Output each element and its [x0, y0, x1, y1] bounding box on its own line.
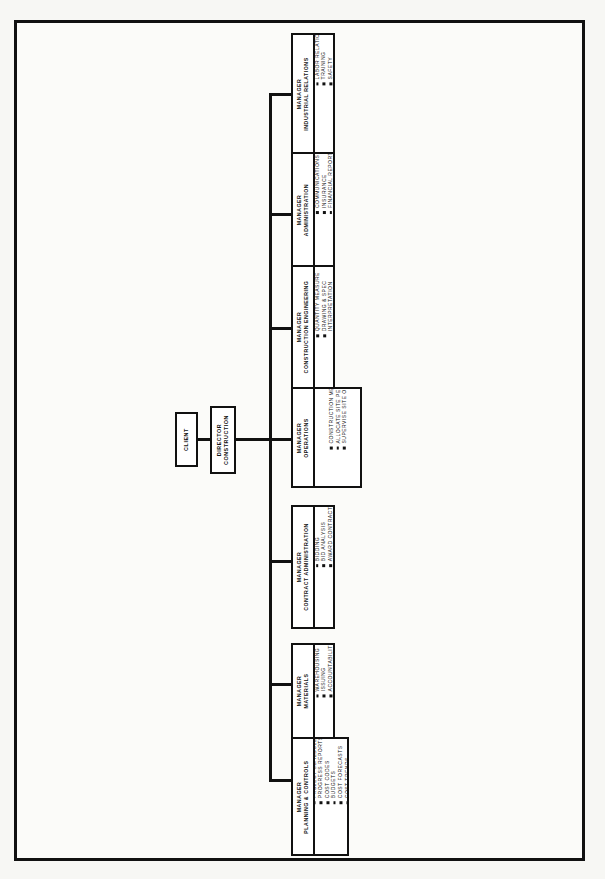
node-construction-engineering-list: SURVEY CONTROLDRAWING & SPEC CONTROLQUAN…	[313, 267, 333, 337]
node-list-item: PACKAGE PREPARATION	[313, 507, 314, 567]
branch-stub-materials	[269, 683, 291, 686]
branch-stub-operations	[269, 438, 291, 441]
node-administration-title-line2: ADMINISTRATION	[303, 183, 310, 235]
node-materials-title: MANAGER MATERIALS	[296, 674, 310, 709]
node-materials-list: RECEIVINGWAREHOUSINGISSUINGACCOUNTABILIT…	[313, 645, 333, 697]
node-operations-body: CONSTRUCTION METHODSALLOCATE SITE PERSON…	[313, 389, 360, 486]
connector-client-director	[198, 438, 210, 441]
node-materials[interactable]: MANAGER MATERIALS RECEIVINGWAREHOUSINGIS…	[291, 643, 335, 739]
node-contract-administration-title-line2: CONTRACT ADMINISTRATION	[303, 523, 310, 611]
node-operations[interactable]: MANAGER OPERATIONS CONSTRUCTION METHODSA…	[291, 387, 362, 488]
node-list-item: QUANTITY MEASURE	[314, 267, 321, 337]
node-operations-title-cell: MANAGER OPERATIONS	[293, 389, 313, 486]
node-construction-engineering[interactable]: MANAGER CONSTRUCTION ENGINEERING SURVEY …	[291, 265, 335, 389]
node-materials-title-cell: MANAGER MATERIALS	[293, 645, 313, 737]
node-contract-administration-body: PACKAGE PREPARATIONBIDDINGBID ANALYSISAW…	[313, 507, 333, 627]
node-list-item: DRAWING & SPEC	[321, 267, 328, 337]
connector-director-trunk	[236, 438, 271, 441]
branch-stub-planning-controls	[269, 779, 291, 782]
node-construction-engineering-title-cell: MANAGER CONSTRUCTION ENGINEERING	[293, 267, 313, 387]
node-industrial-relations-title: MANAGER INDUSTRIAL RELATIONS	[296, 57, 310, 130]
node-planning-controls-title: MANAGER PLANNING & CONTROLS	[296, 760, 310, 833]
node-administration[interactable]: MANAGER ADMINISTRATION ACCOUNTINGPAYROLL…	[291, 152, 335, 267]
branch-stub-contract-administration	[269, 560, 291, 563]
node-materials-title-line1: MANAGER	[296, 674, 303, 709]
node-list-item: ALLOCATE SITE PERSONNEL	[334, 389, 341, 450]
node-director-title: DIRECTOR CONSTRUCTION	[216, 415, 230, 465]
node-industrial-relations-title-line2: INDUSTRIAL RELATIONS	[303, 57, 310, 130]
node-administration-list: ACCOUNTINGPAYROLLCOMMUNICATIONSINSURANCE…	[313, 154, 333, 214]
node-operations-title-line2: OPERATIONS	[303, 418, 310, 457]
node-client[interactable]: CLIENT	[175, 412, 198, 467]
branch-stub-administration	[269, 213, 291, 216]
node-director-title-line1: DIRECTOR	[216, 415, 223, 465]
node-materials-title-line2: MATERIALS	[303, 674, 310, 709]
node-list-item: DRAWING & SPEC CONTROL	[313, 267, 314, 337]
node-industrial-relations[interactable]: MANAGER INDUSTRIAL RELATIONS PERSONNELLA…	[291, 33, 335, 154]
node-contract-administration-title-cell: MANAGER CONTRACT ADMINISTRATION	[293, 507, 313, 627]
node-list-item: INTERPRETATION	[327, 267, 333, 337]
node-construction-engineering-title-line2: CONSTRUCTION ENGINEERING	[303, 281, 310, 374]
node-list-item: SUPERVISE SITE OPERATIONS	[341, 389, 348, 450]
node-list-item: RECEIVING	[313, 645, 314, 697]
node-construction-engineering-body: SURVEY CONTROLDRAWING & SPEC CONTROLQUAN…	[313, 267, 333, 387]
node-planning-controls-body: MASTER SCHEDULESPROJECT SCHEDULESPROGRES…	[313, 739, 347, 854]
node-planning-controls-list: MASTER SCHEDULESPROJECT SCHEDULESPROGRES…	[313, 739, 347, 804]
node-construction-engineering-title-line1: MANAGER	[296, 281, 303, 374]
branch-stub-industrial-relations	[269, 93, 291, 96]
node-administration-title-cell: MANAGER ADMINISTRATION	[293, 154, 313, 265]
node-contract-administration[interactable]: MANAGER CONTRACT ADMINISTRATION PACKAGE …	[291, 505, 335, 629]
node-list-item: COST TRENDS	[344, 739, 347, 804]
node-planning-controls-title-line2: PLANNING & CONTROLS	[303, 760, 310, 833]
node-administration-body: ACCOUNTINGPAYROLLCOMMUNICATIONSINSURANCE…	[313, 154, 333, 265]
node-industrial-relations-body: PERSONNELLABOR RELATIONSTRAININGSAFETYSE…	[313, 35, 333, 152]
node-industrial-relations-list: PERSONNELLABOR RELATIONSTRAININGSAFETYSE…	[313, 35, 333, 85]
node-administration-title-line1: MANAGER	[296, 183, 303, 235]
node-list-item: PERSONNEL	[313, 35, 314, 85]
node-administration-title: MANAGER ADMINISTRATION	[296, 183, 310, 235]
node-construction-engineering-title: MANAGER CONSTRUCTION ENGINEERING	[296, 281, 310, 374]
node-contract-administration-title: MANAGER CONTRACT ADMINISTRATION	[296, 523, 310, 611]
node-industrial-relations-title-cell: MANAGER INDUSTRIAL RELATIONS	[293, 35, 313, 152]
node-client-title-line1: CLIENT	[183, 428, 189, 451]
branch-stub-construction-engineering	[269, 327, 291, 330]
org-chart: CLIENT DIRECTOR CONSTRUCTION MA	[0, 0, 605, 879]
node-director-title-line2: CONSTRUCTION	[223, 415, 230, 465]
node-operations-title: MANAGER OPERATIONS	[296, 418, 310, 457]
page-canvas: CLIENT DIRECTOR CONSTRUCTION MA	[0, 0, 605, 879]
node-list-item: CONSTRUCTION METHODS	[328, 389, 335, 450]
trunk-spine	[269, 93, 272, 781]
node-operations-list: CONSTRUCTION METHODSALLOCATE SITE PERSON…	[328, 389, 348, 450]
node-list-item: SAFETY	[327, 35, 333, 85]
node-list-item: AWARD CONTRACTS	[327, 507, 333, 567]
node-contract-administration-list: PACKAGE PREPARATIONBIDDINGBID ANALYSISAW…	[313, 507, 333, 567]
node-list-item: ACCOUNTABILITY	[327, 645, 333, 697]
node-list-item: PAYROLL	[313, 154, 314, 214]
node-planning-controls-title-cell: MANAGER PLANNING & CONTROLS	[293, 739, 313, 854]
node-list-item: FINANCIAL REPORTS	[327, 154, 333, 214]
node-planning-controls[interactable]: MANAGER PLANNING & CONTROLS MASTER SCHED…	[291, 737, 349, 856]
node-director[interactable]: DIRECTOR CONSTRUCTION	[210, 406, 236, 474]
node-materials-body: RECEIVINGWAREHOUSINGISSUINGACCOUNTABILIT…	[313, 645, 333, 737]
node-client-title: CLIENT	[183, 428, 190, 451]
